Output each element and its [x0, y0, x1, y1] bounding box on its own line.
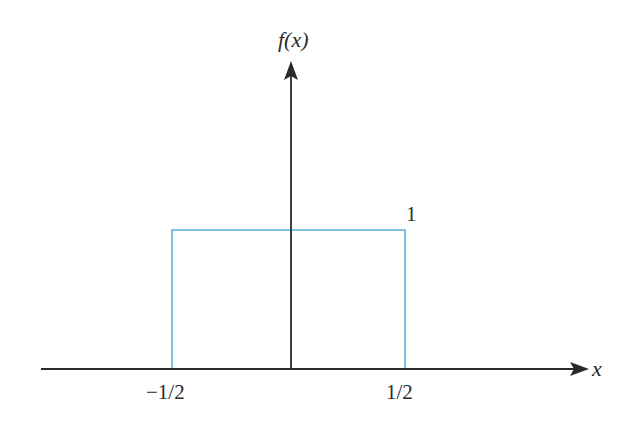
- y-axis-label-text: f(x): [278, 27, 309, 52]
- y-axis-label: f(x): [278, 27, 309, 53]
- x-axis-label: x: [592, 356, 602, 382]
- diagram-canvas: [0, 0, 643, 428]
- tick-label-neg-half: −1/2: [146, 380, 185, 405]
- rect-function-diagram: f(x) x 1 −1/2 1/2: [0, 0, 643, 428]
- tick-label-pos-half: 1/2: [386, 380, 413, 405]
- rect-pulse: [172, 230, 405, 369]
- level-label: 1: [406, 202, 417, 227]
